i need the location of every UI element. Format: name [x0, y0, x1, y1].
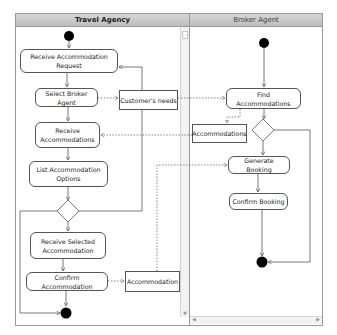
action-confirm-booking[interactable]: Confirm Booking: [229, 193, 288, 210]
lane-header-broker-agent[interactable]: Broker Agent: [189, 13, 323, 27]
object-accommodation[interactable]: Accommodation: [125, 271, 180, 292]
scroll-down-arrow-icon[interactable]: ▼: [183, 310, 187, 316]
object-customers-needs[interactable]: Customer's needs: [119, 90, 178, 110]
scroll-left-arrow-icon[interactable]: ◀: [192, 316, 196, 322]
action-generate-booking[interactable]: Generate Booking: [228, 156, 290, 174]
horizontal-scrollbar[interactable]: ◀ ▶: [190, 316, 322, 324]
action-receive-accommodations[interactable]: Receive Accommodations: [35, 122, 100, 148]
object-accommodations[interactable]: Accommodations: [192, 124, 247, 143]
lane-header-travel-agency[interactable]: Travel Agency: [15, 13, 190, 27]
action-list-accommodation-options[interactable]: List Accommodation Options: [29, 161, 108, 187]
lane-divider: [189, 27, 190, 326]
action-find-accommodations[interactable]: Find Accommodations: [226, 88, 301, 109]
scroll-thumb[interactable]: [182, 31, 188, 39]
action-confirm-accommodation[interactable]: Confirm Accommodation: [26, 272, 108, 291]
scroll-right-arrow-icon[interactable]: ▶: [316, 316, 320, 322]
action-select-broker-agent[interactable]: Select Broker Agent: [35, 88, 98, 107]
action-receive-accommodation-request[interactable]: Receive Accommodation Request: [20, 49, 118, 73]
action-receive-selected-accommodation[interactable]: Receive Selected Accommodation: [30, 232, 106, 259]
vertical-scrollbar[interactable]: ▼: [180, 27, 189, 317]
